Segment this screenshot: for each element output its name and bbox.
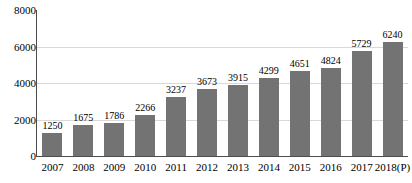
bar-slot: 1250 (37, 10, 68, 156)
x-axis-tick-label: 2007 (41, 162, 63, 173)
bar[interactable] (135, 115, 155, 156)
bar-value-label: 1250 (42, 121, 62, 131)
y-axis-tick-label: 6000 (0, 41, 36, 52)
bar-value-label: 4651 (290, 59, 310, 69)
bar-slot: 3915 (223, 10, 254, 156)
bar-slot: 4651 (284, 10, 315, 156)
bar[interactable] (104, 123, 124, 156)
bar-value-label: 2266 (135, 103, 155, 113)
y-axis-tick-label: 4000 (0, 78, 36, 89)
bar[interactable] (290, 71, 310, 156)
bar[interactable] (73, 125, 93, 156)
bar[interactable] (42, 133, 62, 156)
bar-value-label: 4824 (321, 56, 341, 66)
bar-value-label: 3673 (197, 77, 217, 87)
bar[interactable] (259, 78, 279, 156)
x-axis-tick-label: 2017 (351, 162, 373, 173)
bar[interactable] (352, 51, 372, 156)
plot-area: 1250167517862266323736733915429946514824… (37, 10, 408, 156)
x-axis-tick-label: 2018(P) (375, 162, 410, 173)
bar-slot: 4299 (253, 10, 284, 156)
bar-value-label: 6240 (383, 30, 403, 40)
x-axis-tick-label: 2008 (72, 162, 94, 173)
bar-slot: 1675 (68, 10, 99, 156)
bar[interactable] (197, 89, 217, 156)
x-axis-tick-label: 2011 (165, 162, 187, 173)
bar[interactable] (383, 42, 403, 156)
y-axis-tick-label: 2000 (0, 114, 36, 125)
bar-value-label: 3237 (166, 85, 186, 95)
x-axis-line (36, 156, 408, 157)
x-axis-tick-label: 2012 (196, 162, 218, 173)
bar-slot: 2266 (130, 10, 161, 156)
x-axis-tick-label: 2014 (258, 162, 280, 173)
bar-slot: 6240 (377, 10, 408, 156)
y-axis-tick-label: 8000 (0, 5, 36, 16)
bar-value-label: 1675 (73, 113, 93, 123)
bar[interactable] (228, 85, 248, 156)
x-axis-tick-label: 2013 (227, 162, 249, 173)
bar-slot: 3237 (161, 10, 192, 156)
x-axis-tick-label: 2009 (103, 162, 125, 173)
bar-value-label: 4299 (259, 66, 279, 76)
y-axis-tick-label: 0 (0, 151, 36, 162)
x-axis-tick-label: 2010 (134, 162, 156, 173)
bar-chart: 02000400060008000 1250167517862266323736… (0, 0, 412, 183)
bar-value-label: 3915 (228, 73, 248, 83)
x-axis-tick-label: 2016 (320, 162, 342, 173)
bar[interactable] (321, 68, 341, 156)
bar-slot: 3673 (192, 10, 223, 156)
bar-slot: 1786 (99, 10, 130, 156)
bar[interactable] (166, 97, 186, 156)
bar-slot: 4824 (315, 10, 346, 156)
bar-slot: 5729 (346, 10, 377, 156)
bar-value-label: 5729 (352, 39, 372, 49)
bar-value-label: 1786 (104, 111, 124, 121)
x-axis-tick-label: 2015 (289, 162, 311, 173)
